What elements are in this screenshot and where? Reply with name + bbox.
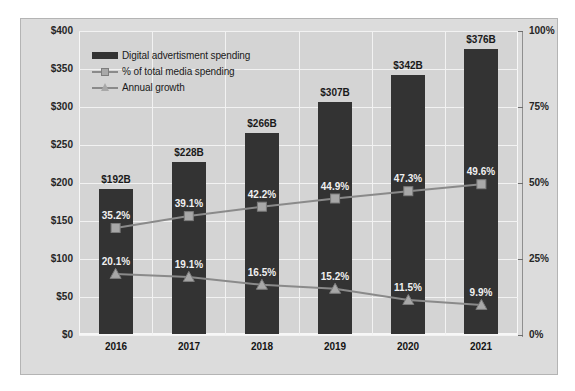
square-marker-icon[interactable]	[257, 202, 266, 211]
gridline-horizontal	[79, 335, 518, 336]
data-point-label: 49.6%	[451, 166, 511, 177]
square-marker-icon[interactable]	[404, 187, 413, 196]
right-axis-tick-mark	[518, 107, 523, 108]
data-point-label: 42.2%	[232, 189, 292, 200]
x-axis-tick-label: 2021	[451, 341, 511, 352]
data-point-label: 44.9%	[305, 181, 365, 192]
square-marker-icon[interactable]	[184, 212, 193, 221]
bar-value-label: $266B	[232, 118, 292, 129]
data-point-label: 16.5%	[232, 267, 292, 278]
square-marker-icon[interactable]	[111, 224, 120, 233]
x-axis-tick-label: 2016	[86, 341, 146, 352]
legend-item-percent-of-total-media-spending[interactable]: % of total media spending	[92, 63, 250, 79]
right-axis-tick-label: 75%	[529, 101, 569, 112]
right-axis-tick-mark	[518, 31, 523, 32]
legend-item-label: Digital advertisment spending	[122, 50, 250, 61]
left-axis-tick-label: $350	[29, 63, 73, 74]
x-axis-tick-label: 2020	[378, 341, 438, 352]
data-point-label: 9.9%	[451, 287, 511, 298]
right-axis-tick-mark	[518, 259, 523, 260]
line-triangle-marker-icon	[92, 83, 118, 92]
x-axis-tick-label: 2019	[305, 341, 365, 352]
bar-value-label: $192B	[86, 174, 146, 185]
left-axis-tick-label: $150	[29, 215, 73, 226]
left-axis-tick-label: $400	[29, 25, 73, 36]
right-axis-tick-label: 0%	[529, 329, 569, 340]
legend-item-digital-advertisment-spending[interactable]: Digital advertisment spending	[92, 47, 250, 63]
left-axis-tick-label: $0	[29, 329, 73, 340]
bar-value-label: $228B	[159, 147, 219, 158]
right-axis-tick-label: 25%	[529, 253, 569, 264]
chart-legend: Digital advertisment spending % of total…	[92, 47, 250, 95]
right-axis-tick-mark	[518, 183, 523, 184]
left-axis-tick-label: $300	[29, 101, 73, 112]
data-point-label: 35.2%	[86, 210, 146, 221]
data-point-label: 15.2%	[305, 271, 365, 282]
bar-value-label: $376B	[451, 34, 511, 45]
bar-value-label: $342B	[378, 60, 438, 71]
left-axis-tick-label: $50	[29, 291, 73, 302]
right-axis-line	[522, 31, 523, 337]
square-marker-icon[interactable]	[331, 194, 340, 203]
right-axis-tick-mark	[518, 335, 523, 336]
line-square-marker-icon	[92, 67, 118, 76]
data-point-label: 11.5%	[378, 282, 438, 293]
bar-swatch-icon	[92, 52, 118, 59]
square-marker-icon[interactable]	[477, 180, 486, 189]
legend-item-label: % of total media spending	[122, 66, 235, 77]
data-point-label: 19.1%	[159, 259, 219, 270]
left-axis-tick-label: $100	[29, 253, 73, 264]
right-axis-tick-label: 50%	[529, 177, 569, 188]
data-point-label: 47.3%	[378, 173, 438, 184]
right-axis-tick-label: 100%	[529, 25, 569, 36]
left-axis-tick-label: $250	[29, 139, 73, 150]
chart-frame: 35.2%39.1%42.2%44.9%47.3%49.6%20.1%19.1%…	[20, 18, 558, 375]
bar-value-label: $307B	[305, 87, 365, 98]
data-point-label: 39.1%	[159, 198, 219, 209]
data-point-label: 20.1%	[86, 256, 146, 267]
legend-item-label: Annual growth	[122, 82, 185, 93]
x-axis-tick-label: 2018	[232, 341, 292, 352]
x-axis-tick-label: 2017	[159, 341, 219, 352]
left-axis-tick-label: $200	[29, 177, 73, 188]
legend-item-annual-growth[interactable]: Annual growth	[92, 79, 250, 95]
